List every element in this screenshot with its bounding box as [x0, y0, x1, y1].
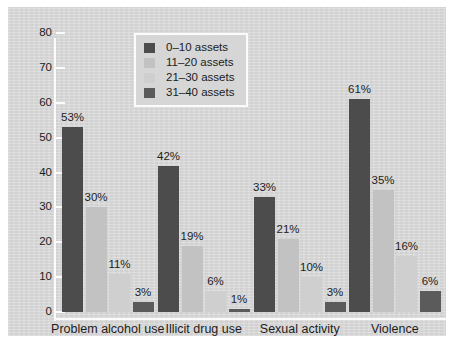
- bar-value-label: 42%: [149, 151, 189, 163]
- y-axis-tick: [56, 102, 65, 104]
- legend-item-label: 31–40 assets: [166, 87, 234, 99]
- y-axis-tick-label: 70: [22, 62, 52, 74]
- bar: [325, 302, 346, 312]
- bar: [349, 99, 370, 312]
- bar-value-label: 3%: [123, 287, 163, 299]
- y-axis-tick-label: 40: [22, 167, 52, 179]
- y-axis-tick-label-text: 70: [26, 62, 52, 74]
- bar: [278, 239, 299, 312]
- legend-swatch-icon: [144, 43, 155, 53]
- bar-value-label: 6%: [196, 276, 236, 288]
- bar-value-label: 16%: [387, 241, 427, 253]
- y-axis-tick: [56, 67, 65, 69]
- y-axis-tick-label-text: 10: [26, 271, 52, 283]
- bar: [229, 309, 250, 312]
- legend-swatch-icon: [144, 58, 155, 68]
- y-axis-line: [54, 38, 56, 321]
- legend-swatch-icon: [144, 73, 155, 83]
- y-axis-tick-label: 60: [22, 97, 52, 109]
- y-axis-tick-label-text: 30: [26, 201, 52, 213]
- y-axis-tick-label: 0: [22, 306, 52, 318]
- legend-item: 31–40 assets: [144, 85, 234, 100]
- y-axis-tick-label-text: 20: [26, 236, 52, 248]
- bar-value-label: 33%: [245, 182, 285, 194]
- bar: [254, 197, 275, 312]
- legend-item: 11–20 assets: [144, 55, 234, 70]
- bar-value-label: 1%: [219, 294, 259, 306]
- bar-value-label: 53%: [53, 112, 93, 124]
- y-axis-tick: [56, 32, 65, 34]
- y-axis-tick-label: 30: [22, 201, 52, 213]
- bar-chart-figure: 80706050403020100 53%30%11%3%42%19%6%1%3…: [0, 0, 459, 347]
- legend-item: 0–10 assets: [144, 40, 234, 55]
- y-axis-tick-label: 80: [22, 27, 52, 39]
- y-axis-tick-label: 50: [22, 132, 52, 144]
- chart-panel: 80706050403020100 53%30%11%3%42%19%6%1%3…: [8, 7, 446, 336]
- bar: [62, 127, 83, 312]
- bar-value-label: 35%: [363, 175, 403, 187]
- legend-swatch-icon: [144, 88, 155, 98]
- legend-item-label: 0–10 assets: [166, 42, 228, 54]
- bar-value-label: 30%: [76, 192, 116, 204]
- bar-value-label: 61%: [340, 84, 380, 96]
- y-axis-tick-label: 20: [22, 236, 52, 248]
- bar: [133, 302, 154, 312]
- y-axis-tick-label-text: 50: [26, 132, 52, 144]
- bar-value-label: 21%: [268, 224, 308, 236]
- y-axis-tick-label-text: 60: [26, 97, 52, 109]
- bar: [420, 291, 441, 312]
- x-axis-category-label: Violence: [325, 323, 446, 336]
- y-axis-tick-label-text: 40: [26, 167, 52, 179]
- y-axis-tick-label: 10: [22, 271, 52, 283]
- y-axis-tick-label-text: 80: [26, 27, 52, 39]
- y-axis-tick-label-text: 0: [26, 306, 52, 318]
- legend-item: 21–30 assets: [144, 70, 234, 85]
- chart-legend: 0–10 assets11–20 assets21–30 assets31–40…: [134, 33, 248, 107]
- bar-value-label: 6%: [410, 276, 446, 288]
- bar-value-label: 10%: [292, 262, 332, 274]
- bar-value-label: 11%: [100, 259, 140, 271]
- legend-item-label: 21–30 assets: [166, 72, 234, 84]
- x-axis-line: [54, 318, 446, 320]
- legend-item-label: 11–20 assets: [166, 57, 234, 69]
- bar-value-label: 19%: [172, 231, 212, 243]
